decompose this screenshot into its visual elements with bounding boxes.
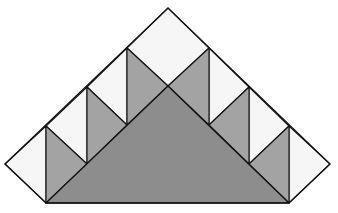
- light-piece-7: [289, 126, 330, 203]
- light-piece-1: [5, 126, 46, 203]
- dissection-diagram: [0, 0, 338, 213]
